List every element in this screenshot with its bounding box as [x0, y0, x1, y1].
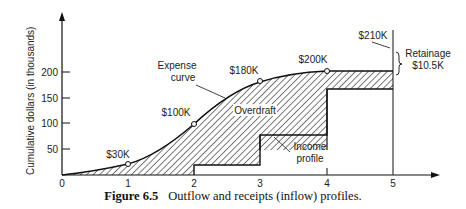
label-30k: $30K: [106, 149, 130, 160]
overdraft-label: Overdraft: [234, 105, 276, 116]
expense-label: Expense: [158, 60, 197, 71]
y-tick-150: 150: [41, 93, 58, 104]
label-210k: $210K: [359, 30, 388, 41]
y-tick-200: 200: [41, 67, 58, 78]
figure-number: Figure 6.5: [104, 189, 158, 203]
y-axis-label: Cumulative dollars (in thousands): [25, 27, 36, 175]
point-marker: [258, 79, 263, 84]
label-200k: $200K: [299, 54, 328, 65]
income-label: Income: [294, 141, 327, 152]
point-marker: [192, 122, 197, 127]
retainage-label: Retainage: [405, 48, 451, 59]
x-axis-arrow-icon: [431, 172, 440, 178]
x-tick-3: 3: [257, 178, 263, 189]
y-axis-arrow-icon: [59, 12, 65, 21]
point-marker: [126, 162, 131, 167]
retainage-value: $10.5K: [412, 60, 444, 71]
figure-title: Outflow and receipts (inflow) profiles.: [168, 189, 361, 203]
x-tick-4: 4: [324, 178, 330, 189]
x-tick-0: 0: [59, 178, 65, 189]
y-tick-50: 50: [47, 144, 59, 155]
chart-canvas: 200 150 100 50 0 1 2 3 4 5 Cumulative do…: [0, 0, 466, 209]
profile-label: profile: [296, 153, 324, 164]
label-180k: $180K: [230, 65, 259, 76]
figure-caption: Figure 6.5Outflow and receipts (inflow) …: [0, 189, 466, 204]
x-tick-5: 5: [390, 178, 396, 189]
x-tick-1: 1: [125, 178, 131, 189]
label-100k: $100K: [162, 107, 191, 118]
curve-label: curve: [171, 72, 196, 83]
retainage-brace-icon: [396, 52, 402, 75]
y-tick-100: 100: [41, 118, 58, 129]
x-tick-2: 2: [191, 178, 197, 189]
point-marker: [325, 69, 330, 74]
